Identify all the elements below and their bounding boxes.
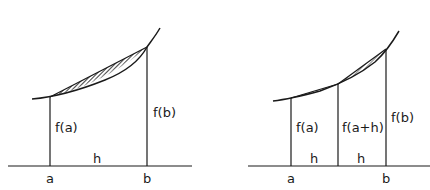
- left-diagram: f(a) f(b) h a b: [8, 28, 192, 186]
- left-curve: [32, 28, 160, 99]
- right-label-fa: f(a): [296, 120, 319, 135]
- right-curve: [273, 31, 399, 101]
- right-label-fb: f(b): [391, 110, 414, 125]
- left-label-h: h: [93, 151, 101, 166]
- right-label-h2: h: [357, 151, 365, 166]
- left-label-b: b: [143, 171, 151, 186]
- right-label-b: b: [382, 171, 390, 186]
- trapezoid-rule-diagrams: f(a) f(b) h a b f(a) f(a+h) f(b) h h a b: [0, 0, 430, 190]
- left-label-fb: f(b): [153, 105, 176, 120]
- right-label-a: a: [287, 171, 295, 186]
- left-label-fa: f(a): [55, 120, 78, 135]
- right-chord-2: [338, 49, 386, 84]
- right-diagram: f(a) f(a+h) f(b) h h a b: [248, 31, 430, 186]
- right-label-fah: f(a+h): [342, 120, 384, 135]
- left-chord: [50, 47, 147, 97]
- left-label-a: a: [46, 171, 54, 186]
- right-label-h1: h: [310, 151, 318, 166]
